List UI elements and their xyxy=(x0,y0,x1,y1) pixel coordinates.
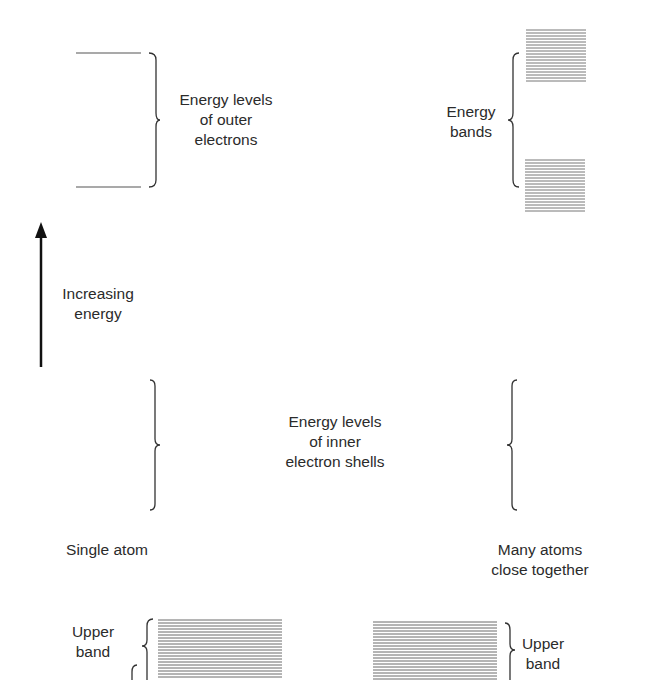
energy-band-upper xyxy=(526,30,586,81)
bottom-right-upper-band xyxy=(373,622,497,679)
label-many-atoms: Many atoms close together xyxy=(475,540,605,580)
label-inner-energy-levels: Energy levels of inner electron shells xyxy=(255,412,415,472)
brace-energy-bands xyxy=(508,53,519,187)
brace-bottom-left-upper-band xyxy=(142,619,153,680)
label-outer-energy-levels: Energy levels of outer electrons xyxy=(166,90,286,150)
bottom-left-upper-band xyxy=(158,620,282,677)
label-single-atom: Single atom xyxy=(52,540,162,560)
brace-inner-levels-right xyxy=(507,380,517,510)
energy-band-lower xyxy=(525,160,585,211)
brace-inner-levels-left xyxy=(150,380,160,510)
increasing-energy-arrow xyxy=(35,222,47,367)
label-increasing-energy: Increasing energy xyxy=(50,284,146,324)
label-energy-bands: Energy bands xyxy=(436,102,506,142)
brace-outer-levels xyxy=(149,53,160,187)
label-upper-band-left: Upper band xyxy=(58,622,128,662)
outer-energy-levels xyxy=(76,53,141,187)
brace-bottom-left-lower-band xyxy=(132,665,137,680)
label-upper-band-right: Upper band xyxy=(513,634,573,674)
